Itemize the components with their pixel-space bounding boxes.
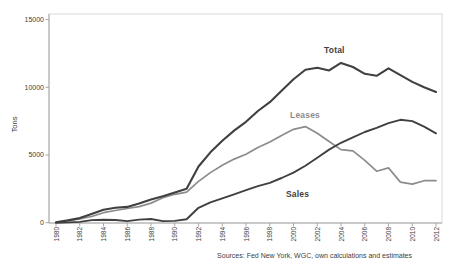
series-label-sales: Sales <box>286 189 309 199</box>
x-tick-label: 1996 <box>243 227 250 242</box>
y-tick-label: 0 <box>40 219 44 226</box>
x-tick-label: 2002 <box>314 227 321 242</box>
x-tick-label: 1994 <box>219 227 226 242</box>
source-note: Sources: Fed New York, WGC, own calculat… <box>217 252 412 259</box>
y-tick-label: 10000 <box>25 84 45 91</box>
y-tick-label: 15000 <box>25 16 45 23</box>
x-tick-label: 1982 <box>76 227 83 242</box>
x-tick-label: 1990 <box>171 227 178 242</box>
x-tick-label: 1992 <box>195 227 202 242</box>
y-axis-title: Tons <box>10 105 19 145</box>
x-tick-label: 2006 <box>361 227 368 242</box>
x-tick-label: 1998 <box>266 227 273 242</box>
series-line-total <box>56 63 436 222</box>
plot-svg: 0500010000150001980198219841986198819901… <box>0 0 460 271</box>
x-tick-label: 1984 <box>100 227 107 242</box>
x-tick-label: 1986 <box>124 227 131 242</box>
x-tick-label: 1980 <box>53 227 60 242</box>
y-tick-label: 5000 <box>28 151 44 158</box>
series-label-leases: Leases <box>290 110 320 120</box>
series-label-total: Total <box>324 45 345 55</box>
plot-area-border <box>49 14 442 223</box>
x-tick-label: 2000 <box>290 227 297 242</box>
x-tick-label: 2010 <box>409 227 416 242</box>
x-tick-label: 2012 <box>433 227 440 242</box>
gold-leases-sales-chart: 0500010000150001980198219841986198819901… <box>0 0 460 271</box>
x-tick-label: 2004 <box>338 227 345 242</box>
x-tick-label: 2008 <box>385 227 392 242</box>
x-tick-label: 1988 <box>148 227 155 242</box>
